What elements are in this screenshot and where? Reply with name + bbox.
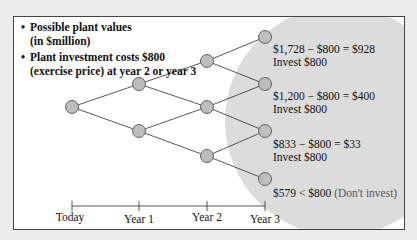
- timeline-today: Today: [56, 211, 85, 223]
- node-y1-up: [133, 78, 146, 91]
- node-y3-2: [259, 78, 272, 91]
- node-y1-down: [133, 125, 146, 138]
- notes: • Possible plant values(in $million) • P…: [21, 20, 196, 78]
- note-2: • Plant investment costs $800(exercise p…: [21, 50, 196, 78]
- note-1: • Possible plant values(in $million): [21, 20, 196, 48]
- outcome-2: $1,200 − $800 = $400 Invest $800: [273, 90, 375, 116]
- bullet-icon: •: [21, 20, 30, 48]
- node-y3-1: [259, 31, 272, 44]
- outcome-3: $833 − $800 = $33 Invest $800: [273, 138, 361, 164]
- node-y2-mid: [201, 101, 214, 114]
- timeline-year1: Year 1: [124, 213, 154, 225]
- diagram-frame: • Possible plant values(in $million) • P…: [13, 16, 405, 230]
- timeline-year2: Year 2: [192, 211, 222, 223]
- outcome-4: $579 < $800 (Don't invest): [273, 187, 397, 200]
- node-y2-down: [201, 150, 214, 163]
- timeline-year3: Year 3: [250, 213, 280, 225]
- node-y3-4: [259, 173, 272, 186]
- node-today: [66, 101, 79, 114]
- node-y3-3: [259, 125, 272, 138]
- node-y2-up: [201, 55, 214, 68]
- bullet-icon: •: [21, 50, 30, 78]
- outcome-1: $1,728 − $800 = $928 Invest $800: [273, 43, 375, 69]
